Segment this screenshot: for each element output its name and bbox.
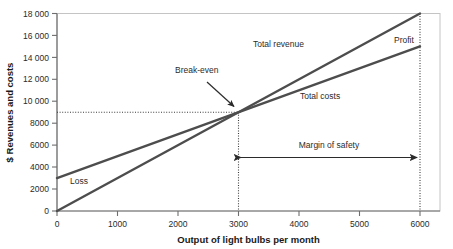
series-total-costs xyxy=(57,46,420,178)
x-axis-tick-labels: 0 1000 2000 3000 4000 5000 6000 xyxy=(55,219,430,229)
y-tick-label-10000: 10 000 xyxy=(23,96,49,106)
y-tick-label-18000: 18 000 xyxy=(23,9,49,19)
y-tick-label-6000: 6000 xyxy=(30,140,49,150)
y-tick-label-14000: 14 000 xyxy=(23,53,49,63)
y-tick-label-16000: 16 000 xyxy=(23,31,49,41)
break-even-chart: 18 000 16 000 14 000 12 000 10 000 8000 … xyxy=(0,0,453,249)
x-tick-label-6000: 6000 xyxy=(411,219,430,229)
x-tick-label-1000: 1000 xyxy=(108,219,127,229)
chart-canvas: 18 000 16 000 14 000 12 000 10 000 8000 … xyxy=(0,0,453,249)
break-even-arrow xyxy=(207,82,234,107)
profit-label: Profit xyxy=(394,35,414,45)
y-axis-ticks xyxy=(52,14,57,212)
x-axis-title: Output of light bulbs per month xyxy=(177,234,320,245)
y-tick-label-12000: 12 000 xyxy=(23,74,49,84)
y-axis-tick-labels: 18 000 16 000 14 000 12 000 10 000 8000 … xyxy=(23,9,49,217)
x-tick-label-5000: 5000 xyxy=(350,219,369,229)
break-even-label: Break-even xyxy=(175,65,219,75)
x-tick-label-2000: 2000 xyxy=(169,219,188,229)
y-tick-label-2000: 2000 xyxy=(30,184,49,194)
x-axis-ticks xyxy=(57,211,420,216)
total-costs-label: Total costs xyxy=(300,91,340,101)
y-tick-label-0: 0 xyxy=(44,206,49,216)
loss-label: Loss xyxy=(70,176,88,186)
y-tick-label-4000: 4000 xyxy=(30,162,49,172)
x-tick-label-0: 0 xyxy=(55,219,60,229)
x-tick-label-4000: 4000 xyxy=(290,219,309,229)
total-revenue-label: Total revenue xyxy=(253,39,304,49)
y-tick-label-8000: 8000 xyxy=(30,118,49,128)
y-axis-title: $ Revenues and costs xyxy=(4,63,15,163)
x-tick-label-3000: 3000 xyxy=(229,219,248,229)
margin-of-safety-label: Margin of safety xyxy=(299,140,360,150)
